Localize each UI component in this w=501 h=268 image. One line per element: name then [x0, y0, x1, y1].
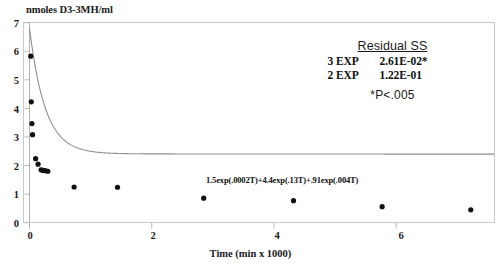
fit-equation-annotation: 1.5exp(.0002T)+4.4exp(.13T)+.91exp(.004T…	[206, 175, 358, 185]
y-tick-label-7: 7	[1, 19, 19, 30]
residual-row-2exp-value: 1.22E-01	[380, 68, 458, 82]
x-tick-label-6: 6	[391, 231, 411, 242]
x-tick-label-4: 4	[267, 231, 287, 242]
y-tick-label-0: 0	[1, 219, 19, 230]
residual-ss-heading: Residual SS	[358, 39, 428, 53]
significance-note: *P<.005	[300, 88, 485, 102]
residual-row-3exp-value: 2.61E-02*	[380, 54, 458, 68]
y-tick-label-2: 2	[1, 162, 19, 173]
x-tick-label-2: 2	[143, 231, 163, 242]
x-axis-title: Time (min x 1000)	[0, 248, 501, 259]
x-axis-ticks	[30, 223, 397, 229]
chart-figure: nmoles D3-3MH/ml Time (min x 1000) 7 6 5…	[0, 0, 501, 268]
y-tick-label-1: 1	[1, 190, 19, 201]
y-tick-label-5: 5	[1, 76, 19, 87]
y-tick-label-3: 3	[1, 133, 19, 144]
residual-heading-wrap: Residual SS	[300, 36, 485, 54]
y-tick-label-6: 6	[1, 47, 19, 58]
y-tick-label-4: 4	[1, 105, 19, 116]
residual-row-3exp: 3 EXP2.61E-02*	[300, 54, 485, 68]
x-tick-label-0: 0	[20, 231, 40, 242]
y-axis-title: nmoles D3-3MH/ml	[26, 4, 113, 15]
residual-row-2exp: 2 EXP1.22E-01	[300, 68, 485, 82]
residual-row-3exp-model: 3 EXP	[328, 54, 380, 68]
residual-row-2exp-model: 2 EXP	[328, 68, 380, 82]
residual-ss-legend: Residual SS 3 EXP2.61E-02* 2 EXP1.22E-01…	[300, 36, 485, 102]
